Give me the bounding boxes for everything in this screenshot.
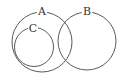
venn-diagram: A B C: [0, 0, 124, 77]
set-a-circle: [12, 12, 72, 72]
set-b-label: B: [83, 5, 91, 18]
set-a-label: A: [37, 5, 47, 18]
set-c-label: C: [29, 22, 37, 35]
venn-diagram-canvas: A B C: [0, 0, 124, 77]
set-b-circle: [58, 12, 116, 70]
